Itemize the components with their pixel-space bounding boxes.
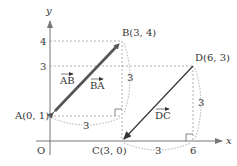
vector-label-dc: DC	[155, 110, 171, 121]
point-label-d: D(6, 3)	[195, 52, 230, 63]
vector-label-ab: AB	[59, 75, 75, 86]
dim-dc-horizontal: 3	[155, 145, 161, 156]
dimension-arcs	[52, 43, 201, 150]
y-tick-4: 4	[40, 36, 46, 47]
y-tick-3: 3	[40, 61, 46, 72]
vector-diagram: x y O AB BA DC A(0, 1) B(	[0, 0, 237, 166]
vector-label-ba: BA	[90, 80, 105, 91]
guide-lines	[50, 41, 193, 141]
vector-dc	[124, 66, 193, 139]
point-label-b: B(3, 4)	[122, 27, 156, 38]
dim-ab-vertical: 3	[127, 72, 133, 83]
y-axis-label: y	[45, 5, 52, 16]
dim-ab-horizontal: 3	[83, 120, 89, 131]
point-label-c: C(3, 0)	[92, 145, 127, 156]
tick-labels: 4 3 6	[40, 36, 196, 156]
point-label-a: A(0, 1)	[14, 110, 49, 121]
dim-dc-vertical: 3	[198, 97, 204, 108]
x-axis-label: x	[226, 135, 232, 146]
x-tick-6: 6	[190, 145, 196, 156]
origin-label: O	[37, 145, 45, 156]
